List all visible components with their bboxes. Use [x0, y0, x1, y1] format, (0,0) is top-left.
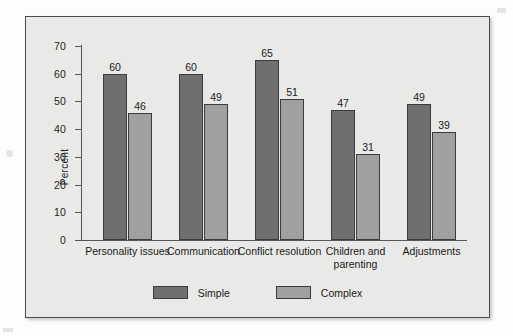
legend-label: Simple	[198, 287, 230, 299]
bar-value-label: 60	[185, 61, 197, 73]
y-axis-line	[81, 45, 82, 241]
x-axis-category-label: Conflict resolution	[237, 245, 323, 258]
bar-complex[interactable]: 46	[128, 113, 152, 240]
y-axis-tick: 70	[75, 46, 81, 47]
bar-simple[interactable]: 49	[407, 104, 431, 240]
bar-complex[interactable]: 51	[280, 99, 304, 240]
y-axis-tick: 40	[75, 129, 81, 130]
bar-simple[interactable]: 60	[103, 74, 127, 240]
scan-speck	[3, 328, 13, 332]
y-axis-tick-label: 20	[54, 179, 66, 191]
bar-value-label: 46	[134, 100, 146, 112]
legend-swatch-icon	[276, 286, 311, 299]
legend-label: Complex	[321, 287, 362, 299]
chart-legend: Simple Complex	[26, 286, 489, 299]
y-axis-tick: 0	[75, 240, 81, 241]
bar-value-label: 65	[261, 47, 273, 59]
bar-simple[interactable]: 65	[255, 60, 279, 240]
scan-speck	[6, 150, 13, 157]
legend-item-simple[interactable]: Simple	[153, 286, 230, 299]
x-axis-line	[81, 240, 467, 241]
y-axis-tick: 10	[75, 212, 81, 213]
bar-simple[interactable]: 47	[331, 110, 355, 240]
y-axis-tick-label: 0	[60, 234, 66, 246]
y-axis-tick-label: 50	[54, 95, 66, 107]
bar-value-label: 60	[109, 61, 121, 73]
y-axis-tick-label: 60	[54, 68, 66, 80]
y-axis-tick-label: 30	[54, 151, 66, 163]
y-axis-tick-label: 70	[54, 40, 66, 52]
bar-complex[interactable]: 39	[432, 132, 456, 240]
x-axis-category-label: Children and parenting	[313, 245, 399, 270]
bar-value-label: 49	[210, 91, 222, 103]
y-axis-tick: 30	[75, 157, 81, 158]
bar-value-label: 39	[438, 119, 450, 131]
scanned-page: Percent 0 10 20 30 40 50	[0, 0, 513, 336]
bar-value-label: 51	[286, 86, 298, 98]
legend-swatch-icon	[153, 286, 188, 299]
x-axis-category-label: Communication	[161, 245, 247, 258]
plot-area: 0 10 20 30 40 50 60 70	[81, 46, 466, 240]
y-axis-tick: 60	[75, 74, 81, 75]
legend-item-complex[interactable]: Complex	[276, 286, 362, 299]
bar-complex[interactable]: 49	[204, 104, 228, 240]
bar-complex[interactable]: 31	[356, 154, 380, 240]
bar-value-label: 49	[413, 91, 425, 103]
bar-value-label: 31	[362, 141, 374, 153]
y-axis-tick-label: 10	[54, 206, 66, 218]
x-axis-category-label: Personality issues	[85, 245, 171, 258]
bar-value-label: 47	[337, 97, 349, 109]
y-axis-tick: 50	[75, 101, 81, 102]
x-axis-category-label: Adjustments	[389, 245, 475, 258]
figure-frame: Percent 0 10 20 30 40 50	[25, 16, 490, 318]
bar-simple[interactable]: 60	[179, 74, 203, 240]
y-axis-tick: 20	[75, 185, 81, 186]
y-axis-tick-label: 40	[54, 123, 66, 135]
scan-speck	[497, 8, 506, 13]
